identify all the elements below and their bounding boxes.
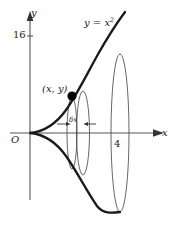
point-marker-dot bbox=[67, 91, 76, 100]
solid-of-revolution-figure: y = x2 y x 16 4 O (x, y) δx bbox=[0, 0, 174, 234]
y-tick-label-16: 16 bbox=[13, 30, 26, 40]
y-axis-label: y bbox=[31, 8, 37, 18]
x-tick-label-4: 4 bbox=[114, 139, 120, 149]
parabola-lower-curve bbox=[31, 133, 121, 213]
figure-canvas bbox=[0, 0, 174, 234]
curve-equation-text: y = x bbox=[84, 17, 110, 28]
curve-equation-label: y = x2 bbox=[84, 18, 114, 28]
x-axis-label: x bbox=[162, 128, 168, 138]
delta-x-right-arrowhead bbox=[84, 122, 89, 126]
origin-label: O bbox=[11, 135, 19, 145]
curve-equation-exponent: 2 bbox=[110, 16, 114, 23]
point-coordinates-label: (x, y) bbox=[42, 84, 67, 94]
delta-x-label: δx bbox=[69, 117, 77, 124]
axes-group bbox=[10, 11, 164, 200]
